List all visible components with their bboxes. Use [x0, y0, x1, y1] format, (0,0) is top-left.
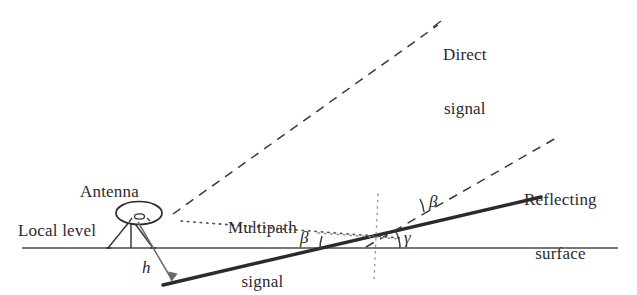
label-beta-surface-angle: β	[300, 228, 308, 248]
label-reflecting-surface: Reflecting surface	[524, 155, 597, 295]
reflecting-surface-line	[163, 197, 541, 285]
reflecting-surface-line-1: Reflecting	[524, 191, 597, 209]
label-antenna: Antenna	[80, 183, 139, 201]
reflecting-surface-line-2: surface	[524, 245, 597, 263]
multipath-geometry-diagram: Direct signal Reflecting surface Multipa…	[0, 0, 637, 295]
direct-signal-line	[173, 25, 438, 214]
label-multipath-signal: Multipath signal	[228, 183, 297, 295]
label-beta-reflect-angle: β	[429, 192, 437, 212]
label-gamma-angle: γ	[404, 228, 411, 248]
multipath-signal-line-1: Multipath	[228, 219, 297, 237]
label-direct-signal: Direct signal	[443, 10, 487, 154]
antenna-dish	[116, 202, 162, 225]
antenna-tripod	[106, 221, 156, 248]
label-antenna-height: h	[142, 258, 151, 278]
label-local-level: Local level	[18, 222, 96, 240]
direct-signal-line-2: signal	[443, 100, 487, 118]
multipath-signal-line-2: signal	[228, 273, 297, 291]
beta-reflect-arc	[420, 199, 424, 212]
direct-signal-line-1: Direct	[443, 46, 487, 64]
gamma-arc	[396, 232, 400, 248]
